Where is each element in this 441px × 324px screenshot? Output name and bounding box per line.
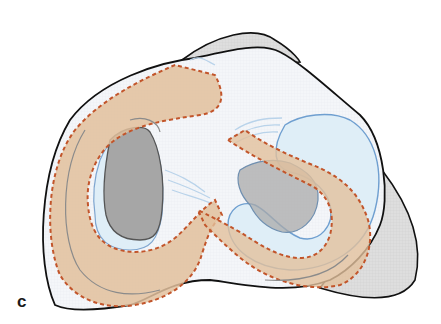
panel-label: c — [17, 292, 26, 312]
tibial-plateau-diagram — [0, 0, 441, 324]
medial-cartilage-grey — [104, 127, 163, 240]
